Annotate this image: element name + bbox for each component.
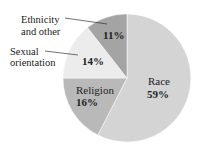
religion-value: 16% (76, 96, 98, 108)
ethnicity-value: 11% (103, 29, 124, 41)
pie-chart: 11% 14% Religion 16% Race 59% Ethnicity … (0, 0, 199, 151)
race-value: 59% (147, 88, 169, 100)
ethnicity-label-line1: Ethnicity (21, 14, 60, 25)
sexual-value: 14% (82, 55, 104, 67)
sexual-label-line2: orientation (10, 57, 56, 68)
race-name: Race (148, 75, 170, 87)
ethnicity-label-line2: and other (21, 26, 61, 37)
sexual-label-line1: Sexual (10, 46, 39, 57)
religion-name: Religion (76, 84, 114, 96)
